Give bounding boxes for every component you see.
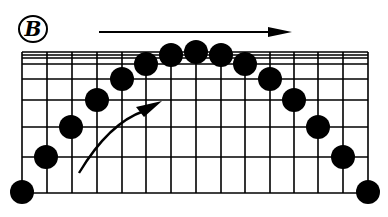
label-b-badge: B bbox=[19, 16, 47, 42]
grid-diagram: B bbox=[0, 0, 388, 217]
dot bbox=[34, 145, 58, 169]
dot bbox=[331, 145, 355, 169]
dot bbox=[306, 115, 330, 139]
dot bbox=[209, 43, 233, 67]
dot bbox=[110, 67, 134, 91]
dot bbox=[159, 43, 183, 67]
dot bbox=[134, 52, 158, 76]
right-arrow-icon bbox=[99, 27, 292, 37]
dot bbox=[356, 180, 380, 204]
dot bbox=[10, 180, 34, 204]
dot bbox=[233, 52, 257, 76]
dot bbox=[184, 40, 208, 64]
dot bbox=[258, 67, 282, 91]
dot bbox=[282, 88, 306, 112]
dot bbox=[85, 88, 109, 112]
dot bbox=[59, 115, 83, 139]
label-b: B bbox=[24, 17, 42, 41]
curved-arrow-icon bbox=[79, 101, 162, 173]
diagram-canvas: B bbox=[0, 0, 388, 217]
